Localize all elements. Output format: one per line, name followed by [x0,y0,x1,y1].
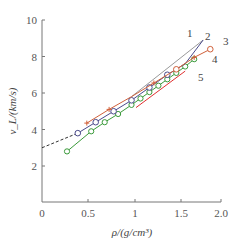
x-tick-1: 1 [132,207,138,219]
dashed-extrapolation-line [42,133,78,148]
series-3-label: 3 [223,35,229,47]
x-axis-label: ρ/(g/cm³) [111,226,153,239]
y-tick-2: 2 [32,160,38,172]
series-5-label: 5 [198,71,204,83]
y-tick-6: 6 [32,87,38,99]
y-tick-10: 10 [26,14,38,26]
series-4-label: 4 [212,53,218,65]
series-1-label: 1 [187,27,193,39]
series-2 [75,40,203,136]
y-tick-labels: 10 8 6 4 2 [26,14,38,172]
series-2-label: 2 [205,30,211,42]
y-tick-4: 4 [32,124,38,136]
y-tick-8: 8 [32,51,38,63]
x-tick-0: 0 [39,207,45,219]
series-3 [84,46,213,125]
y-axis-label: v_L/(km/s) [6,87,19,134]
chart: 10 8 6 4 2 0 0.5 1 1.5 2.0 ρ/(g/cm³) v_L… [0,0,243,246]
series-1-line [132,40,204,97]
x-tick-labels: 0 0.5 1 1.5 2.0 [39,207,228,219]
x-tick-0.5: 0.5 [81,207,95,219]
x-tick-2.0: 2.0 [214,207,228,219]
series-labels: 1 2 3 4 5 [187,27,229,83]
x-tick-1.5: 1.5 [174,207,188,219]
